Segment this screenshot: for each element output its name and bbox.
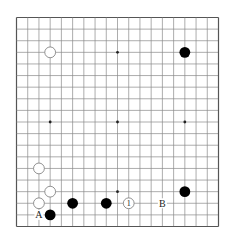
black-stone — [179, 47, 190, 58]
white-stone — [45, 47, 56, 58]
point-label-b: B — [159, 198, 166, 209]
move-number: 1 — [127, 199, 131, 208]
black-stone — [179, 186, 190, 197]
black-stone — [45, 209, 56, 220]
star-point — [116, 51, 119, 54]
star-point — [183, 121, 186, 124]
go-board: 1 AB — [0, 0, 230, 249]
point-label-a: A — [35, 209, 43, 220]
white-stone — [34, 163, 45, 174]
black-stone — [101, 198, 112, 209]
white-stone — [45, 186, 56, 197]
black-stone — [67, 198, 78, 209]
star-point — [49, 121, 52, 124]
white-stone: 1 — [123, 198, 134, 209]
white-stone — [34, 198, 45, 209]
star-point — [116, 121, 119, 124]
star-point — [116, 190, 119, 193]
